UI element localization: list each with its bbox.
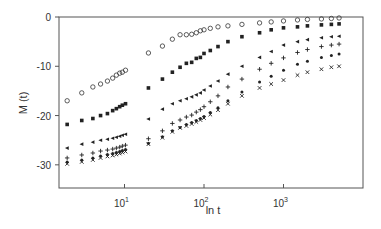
data-point (330, 54, 333, 57)
data-point (98, 82, 102, 86)
data-point (146, 137, 150, 141)
data-point (226, 102, 230, 106)
data-point (208, 84, 212, 88)
data-point (178, 65, 182, 69)
data-point (337, 34, 341, 38)
data-point (110, 147, 114, 151)
plot-frame (59, 17, 363, 188)
data-point (319, 36, 323, 40)
data-point (281, 56, 285, 60)
data-point (189, 113, 193, 117)
data-point (123, 143, 127, 147)
data-point (194, 57, 198, 61)
data-point (226, 85, 230, 89)
data-point (240, 90, 243, 93)
data-point (216, 45, 220, 49)
data-point (198, 91, 202, 95)
data-point (305, 17, 309, 21)
data-point (189, 32, 193, 36)
data-point (110, 136, 114, 140)
data-point (216, 25, 220, 29)
data-point (269, 50, 273, 54)
data-point (91, 140, 95, 144)
y-tick-label: -10 (37, 61, 52, 72)
data-point (171, 70, 175, 74)
data-point (281, 43, 285, 47)
data-point (295, 40, 299, 44)
data-point (320, 23, 324, 27)
x-tick-label: 103 (273, 196, 288, 209)
data-point (185, 62, 189, 66)
data-point (240, 64, 244, 68)
series-5 (66, 52, 341, 163)
data-point (320, 67, 324, 71)
data-point (120, 144, 124, 148)
y-tick-label: -20 (37, 111, 52, 122)
data-point (80, 91, 84, 95)
data-point (115, 107, 119, 111)
data-point (281, 19, 285, 23)
data-point (178, 99, 182, 103)
data-point (124, 102, 128, 106)
data-point (184, 115, 188, 119)
data-point (208, 100, 212, 104)
data-point (320, 56, 323, 59)
data-point (65, 99, 69, 103)
data-point (269, 61, 273, 65)
data-point (306, 60, 309, 63)
data-point (184, 33, 188, 37)
y-axis: 0-10-20-30 (37, 12, 59, 171)
data-point (295, 18, 299, 22)
data-point (91, 117, 95, 121)
data-point (337, 22, 341, 26)
data-point (170, 37, 174, 41)
data-point (208, 49, 212, 53)
data-point (306, 24, 310, 28)
data-point (337, 16, 341, 20)
data-point (295, 50, 299, 54)
data-point (226, 72, 230, 76)
data-point (202, 88, 206, 92)
data-point (257, 56, 261, 60)
x-axis-title: ln t (206, 204, 221, 216)
data-point (216, 94, 220, 98)
data-point (184, 97, 188, 101)
data-point (99, 114, 103, 118)
x-tick-label: 101 (114, 196, 129, 209)
data-point (106, 112, 110, 116)
data-point (170, 102, 174, 106)
chart: 0-10-20-30 101102103 ln t M (t) (0, 0, 381, 229)
data-point (329, 43, 333, 47)
data-point (216, 79, 220, 83)
data-point (147, 86, 151, 90)
data-point (91, 151, 95, 155)
data-point (160, 107, 164, 111)
data-point (117, 145, 121, 149)
data-point (146, 117, 150, 121)
data-point (269, 82, 273, 86)
data-point (258, 31, 262, 35)
data-point (114, 135, 118, 139)
data-point (117, 71, 121, 75)
data-point (226, 99, 229, 102)
data-point (194, 110, 198, 114)
data-point (282, 69, 285, 72)
data-point (240, 77, 244, 81)
data-point (194, 93, 198, 97)
data-point (65, 123, 69, 127)
data-point (226, 40, 230, 44)
data-point (80, 153, 84, 157)
data-point (199, 56, 203, 60)
data-point (160, 129, 164, 133)
data-point (160, 44, 164, 48)
data-point (240, 35, 244, 39)
series-2 (65, 22, 341, 126)
data-point (258, 81, 261, 84)
data-point (319, 44, 323, 48)
data-point (208, 26, 212, 30)
data-point (337, 64, 341, 68)
data-point (330, 23, 334, 27)
y-tick-label: -30 (37, 160, 52, 171)
data-point (270, 75, 273, 78)
data-point (121, 103, 125, 107)
